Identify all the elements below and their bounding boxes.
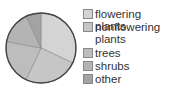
chart-legend: flowering plants nonflowering plants tre… — [83, 8, 173, 86]
legend-label: nonflowering plants — [95, 21, 165, 45]
pie-chart — [4, 11, 78, 85]
legend-item-nonflowering-plants: nonflowering plants — [83, 21, 173, 47]
legend-swatch — [83, 9, 93, 19]
legend-swatch — [83, 22, 93, 32]
legend-label: shrubs — [95, 60, 171, 72]
legend-item-trees: trees — [83, 47, 173, 60]
legend-item-other: other — [83, 73, 173, 86]
legend-label: trees — [95, 47, 171, 59]
legend-swatch — [83, 48, 93, 58]
legend-item-shrubs: shrubs — [83, 60, 173, 73]
legend-swatch — [83, 74, 93, 84]
legend-item-flowering-plants: flowering plants — [83, 8, 173, 21]
legend-swatch — [83, 61, 93, 71]
legend-label: other — [95, 73, 171, 85]
